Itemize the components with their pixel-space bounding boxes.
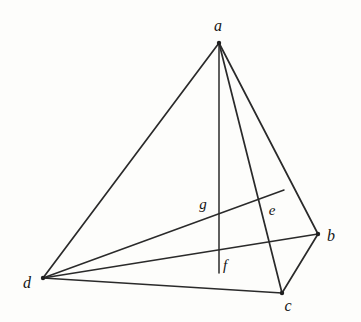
point-label-e: e xyxy=(269,203,276,218)
vertex-dot-c xyxy=(280,291,284,295)
vertex-dot-a xyxy=(217,41,221,45)
cevian-d-e-extended xyxy=(43,190,284,278)
point-label-d: d xyxy=(23,275,31,291)
vertex-dots-layer xyxy=(41,41,320,295)
point-label-f: f xyxy=(223,258,227,273)
point-label-b: b xyxy=(327,228,335,244)
tetrahedron-figure: abcdefg xyxy=(0,0,361,322)
point-label-a: a xyxy=(214,18,222,34)
point-label-g: g xyxy=(199,197,207,212)
edge-b-c xyxy=(282,234,318,293)
edge-d-c xyxy=(43,278,282,293)
edge-a-c xyxy=(219,43,282,293)
edge-a-d xyxy=(43,43,219,278)
tetrahedron-svg xyxy=(0,0,361,322)
segments-layer xyxy=(43,43,318,293)
point-label-c: c xyxy=(284,298,291,314)
vertex-dot-b xyxy=(316,232,320,236)
vertex-dot-d xyxy=(41,276,45,280)
